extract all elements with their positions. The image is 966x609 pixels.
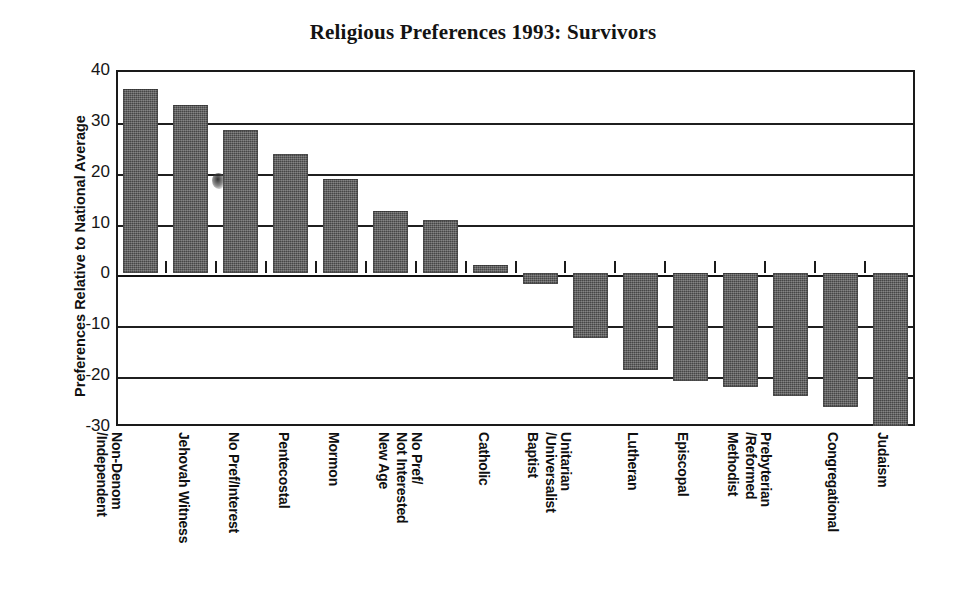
x-axis-label-line: /Universalist [543, 432, 558, 513]
x-axis-label-line: No Pref/ [409, 432, 425, 484]
x-axis-label-slot: Prebyterian/Reformed [765, 430, 815, 605]
bars-layer [116, 70, 915, 426]
x-axis-tick [265, 261, 267, 273]
x-axis-label: Unitarian/Universalist [543, 432, 573, 513]
bar [373, 211, 408, 274]
bar [123, 89, 158, 273]
y-tick-label: 0 [64, 263, 110, 283]
x-axis-label-line: /Reformed [743, 432, 758, 507]
x-axis-tick [564, 261, 566, 273]
y-tick-label: -20 [64, 365, 110, 385]
bar [673, 273, 708, 381]
x-axis-tick [515, 261, 517, 273]
bar [273, 154, 308, 274]
x-axis-label: No Pref/Interest [226, 432, 241, 533]
x-axis-label-slot: Judaism [865, 430, 915, 605]
x-axis-label-slot: Mormon [316, 430, 366, 605]
x-axis-label-slot: Non-Denom/Independent [116, 430, 166, 605]
bar [423, 220, 458, 274]
bar [573, 273, 608, 337]
x-axis-label-line: /Independent [94, 432, 109, 517]
x-axis-label: Non-Denom/Independent [94, 432, 124, 517]
x-axis-label-slot: Pentecostal [266, 430, 316, 605]
x-axis-label-line: Methodist [725, 432, 741, 496]
x-axis-tick [814, 261, 816, 273]
x-axis-tick [465, 261, 467, 273]
x-axis-tick [714, 261, 716, 273]
x-axis-label: Mormon [326, 432, 341, 486]
x-axis-label-slot: Lutheran [615, 430, 665, 605]
x-axis-label-slot: No Pref/Not Interested [416, 430, 466, 605]
x-axis-label-line: Congregational [825, 432, 841, 532]
bar [473, 265, 508, 274]
y-axis-tick-labels: 403020100-10-20-30 [50, 70, 110, 426]
x-axis-label: Baptist [525, 432, 540, 478]
chart-title: Religious Preferences 1993: Survivors [0, 20, 966, 45]
x-axis-label-line: New Age [376, 432, 392, 489]
x-axis-label: Congregational [825, 432, 840, 532]
x-axis-label-slot: Unitarian/Universalist [565, 430, 615, 605]
x-axis-tick [165, 261, 167, 273]
x-axis-label-line: Not Interested [394, 432, 409, 523]
x-axis-label: Catholic [476, 432, 491, 486]
x-axis-label: Prebyterian/Reformed [743, 432, 773, 507]
x-axis-tick [315, 261, 317, 273]
y-tick-label: 20 [64, 162, 110, 182]
bar [523, 273, 558, 284]
x-axis-label-line: Catholic [476, 432, 492, 486]
x-axis-label: Judaism [875, 432, 890, 487]
x-axis-label-slot: Congregational [815, 430, 865, 605]
x-axis-label: No Pref/Not Interested [394, 432, 424, 523]
x-axis-label-line: Mormon [326, 432, 342, 486]
x-axis-tick [664, 261, 666, 273]
bar [773, 273, 808, 396]
y-tick-label: -10 [64, 314, 110, 334]
x-axis-tick [415, 261, 417, 273]
x-axis-label: Episcopal [675, 432, 690, 496]
x-axis-label: Jehovah Witness [176, 432, 191, 543]
x-axis-tick [764, 261, 766, 273]
x-axis-label: Pentecostal [276, 432, 291, 508]
bar [723, 273, 758, 386]
x-axis-label-slot: Catholic [466, 430, 516, 605]
bar [623, 273, 658, 370]
y-tick-label: 30 [64, 111, 110, 131]
x-axis-label-line: Baptist [525, 432, 541, 478]
bar [323, 179, 358, 273]
x-axis-label: Methodist [725, 432, 740, 496]
x-axis-label-line: Episcopal [675, 432, 691, 496]
x-axis-label-slot: Episcopal [665, 430, 715, 605]
x-axis-tick [864, 261, 866, 273]
x-axis-labels: Non-Denom/IndependentJehovah WitnessNo P… [116, 430, 915, 605]
x-axis-label: Lutheran [625, 432, 640, 490]
x-axis-tick [365, 261, 367, 273]
x-axis-label-slot: Jehovah Witness [166, 430, 216, 605]
bar [823, 273, 858, 407]
x-axis-label-slot: No Pref/Interest [216, 430, 266, 605]
x-axis-label-line: Pentecostal [276, 432, 292, 508]
x-axis-label-line: Prebyterian [758, 432, 774, 507]
x-axis-label: New Age [376, 432, 391, 489]
x-axis-tick [215, 261, 217, 273]
x-axis-tick [614, 261, 616, 273]
x-axis-label-line: Jehovah Witness [176, 432, 192, 543]
x-axis-label-line: No Pref/Interest [226, 432, 242, 533]
y-tick-label: 10 [64, 213, 110, 233]
x-axis-label-line: Judaism [875, 432, 891, 487]
bar [223, 130, 258, 274]
x-axis-label-line: Non-Denom [109, 432, 125, 510]
bar [173, 105, 208, 273]
y-tick-label: 40 [64, 60, 110, 80]
x-axis-label-line: Unitarian [558, 432, 574, 491]
x-axis-label-line: Lutheran [625, 432, 641, 490]
bar [873, 273, 908, 426]
